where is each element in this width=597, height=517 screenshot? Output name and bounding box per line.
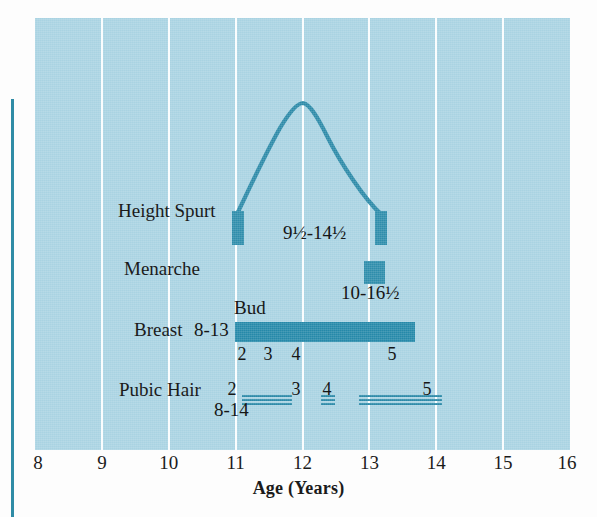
breast-stage-5: 5 bbox=[388, 345, 397, 364]
x-axis-title: Age (Years) bbox=[0, 478, 597, 499]
pubic-hair-stage-3: 3 bbox=[292, 380, 301, 399]
breast-stage-4: 4 bbox=[292, 345, 301, 364]
x-tick-8: 8 bbox=[33, 452, 43, 474]
x-tick-13: 13 bbox=[360, 452, 379, 474]
pubic-hair-stage-2: 2 bbox=[228, 380, 237, 399]
pubic-hair-stage-4: 4 bbox=[323, 380, 332, 399]
x-tick-14: 14 bbox=[427, 452, 446, 474]
row-label-pubic-hair: Pubic Hair bbox=[119, 380, 201, 400]
breast-bud-note: Bud bbox=[234, 298, 266, 318]
x-tick-9: 9 bbox=[97, 452, 107, 474]
row-label-breast: Breast bbox=[134, 320, 183, 340]
x-tick-12: 12 bbox=[293, 452, 312, 474]
menarche-range-note: 10-16½ bbox=[341, 283, 400, 303]
pubic-hair-rule-2-3 bbox=[242, 395, 292, 406]
height-spurt-end-block bbox=[375, 211, 387, 245]
menarche-block bbox=[364, 261, 385, 284]
height-spurt-range-note: 9½-14½ bbox=[283, 223, 346, 243]
pubic-hair-stage-5: 5 bbox=[423, 380, 432, 399]
breast-stage-3: 3 bbox=[264, 345, 273, 364]
x-tick-11: 11 bbox=[226, 452, 244, 474]
height-spurt-start-block bbox=[232, 211, 244, 245]
row-label-menarche: Menarche bbox=[124, 259, 200, 279]
breast-stage-2: 2 bbox=[238, 345, 247, 364]
row-label-height-spurt: Height Spurt bbox=[118, 201, 216, 221]
x-axis-ticks: 8 9 10 11 12 13 14 15 16 bbox=[35, 452, 570, 476]
x-tick-10: 10 bbox=[159, 452, 178, 474]
breast-bar bbox=[235, 322, 415, 342]
x-tick-15: 15 bbox=[494, 452, 513, 474]
figure-canvas: Height Spurt 9½-14½ Menarche 10-16½ Bud … bbox=[0, 0, 597, 517]
left-margin-rule bbox=[11, 99, 14, 517]
pubic-hair-range-note: 8-14 bbox=[214, 400, 249, 420]
x-tick-16: 16 bbox=[558, 452, 577, 474]
breast-range-note: 8-13 bbox=[194, 320, 229, 340]
